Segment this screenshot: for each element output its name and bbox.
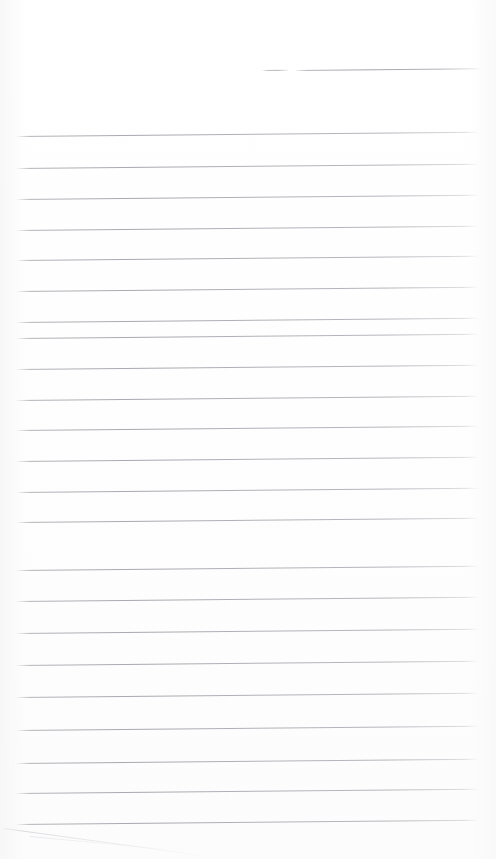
writing-line-18[interactable]	[16, 639, 478, 668]
scanned-page	[0, 0, 496, 859]
writing-line-17[interactable]	[16, 607, 478, 636]
writing-line-10[interactable]	[16, 374, 478, 403]
writing-line-1[interactable]	[16, 110, 478, 139]
writing-line-2[interactable]	[16, 142, 478, 171]
writing-line-11[interactable]	[16, 404, 478, 433]
writing-line-20[interactable]	[16, 704, 478, 733]
writing-line-15[interactable]	[16, 544, 478, 573]
writing-line-4[interactable]	[16, 204, 478, 233]
writing-line-19[interactable]	[16, 671, 478, 700]
writing-line-23[interactable]	[16, 798, 478, 827]
writing-line-3[interactable]	[16, 173, 478, 202]
writing-line-6[interactable]	[16, 265, 478, 294]
writing-line-8[interactable]	[16, 312, 478, 341]
writing-line-13[interactable]	[16, 466, 478, 495]
writing-line-22[interactable]	[16, 767, 478, 796]
writing-line-16[interactable]	[16, 575, 478, 604]
writing-line-5[interactable]	[16, 234, 478, 263]
writing-line-14[interactable]	[16, 496, 478, 525]
writing-line-9[interactable]	[16, 343, 478, 372]
writing-line-21[interactable]	[16, 737, 478, 766]
writing-line-12[interactable]	[16, 435, 478, 464]
